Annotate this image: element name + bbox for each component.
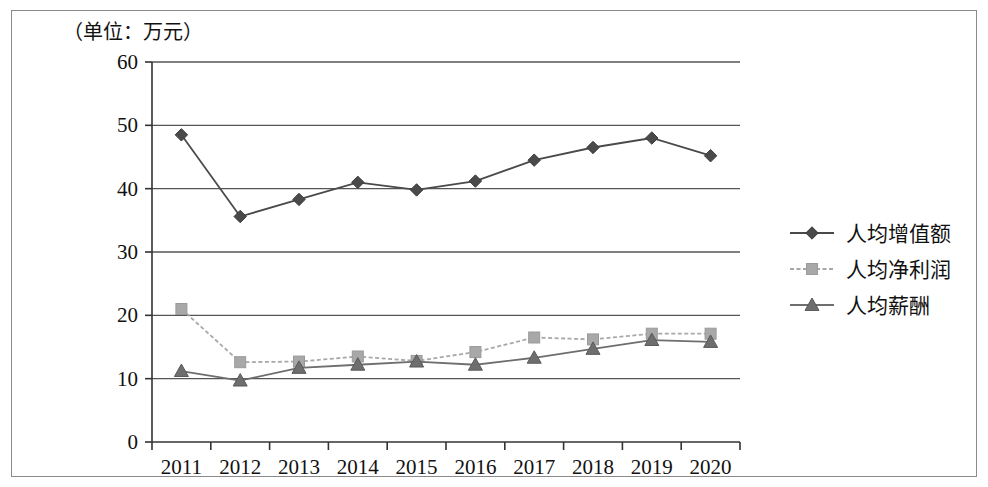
legend-marker bbox=[806, 227, 818, 239]
y-tick-label: 40 bbox=[117, 177, 138, 201]
data-point bbox=[470, 347, 481, 358]
data-point bbox=[174, 364, 188, 376]
series-2 bbox=[176, 304, 716, 368]
legend-item-1: 人均增值额 bbox=[790, 222, 951, 246]
legend-item-2: 人均净利润 bbox=[790, 258, 951, 282]
data-point bbox=[176, 304, 187, 315]
legend-item-3: 人均薪酬 bbox=[790, 294, 930, 318]
y-tick-label: 0 bbox=[128, 430, 139, 454]
x-tick-label: 2017 bbox=[513, 455, 555, 479]
line-chart: 6050403020100 20112012201320142015201620… bbox=[0, 0, 988, 487]
x-axis bbox=[152, 442, 740, 450]
y-axis bbox=[145, 62, 152, 442]
data-point bbox=[234, 210, 246, 222]
series-line bbox=[181, 309, 710, 362]
x-tick-label: 2011 bbox=[161, 455, 202, 479]
x-tick-label: 2020 bbox=[690, 455, 732, 479]
chart-figure: （单位：万元） 6050403020100 201120122013201420… bbox=[0, 0, 988, 487]
data-point bbox=[235, 357, 246, 368]
data-point bbox=[410, 184, 422, 196]
data-point bbox=[529, 332, 540, 343]
y-tick-labels: 6050403020100 bbox=[117, 50, 138, 454]
legend-label: 人均薪酬 bbox=[846, 294, 930, 318]
legend-marker bbox=[807, 264, 818, 275]
series-line bbox=[181, 135, 710, 217]
legend-label: 人均增值额 bbox=[846, 222, 951, 246]
data-series-group bbox=[174, 129, 717, 386]
x-tick-label: 2018 bbox=[572, 455, 614, 479]
y-tick-label: 10 bbox=[117, 367, 138, 391]
x-tick-labels: 2011201220132014201520162017201820192020 bbox=[161, 455, 732, 479]
y-tick-label: 20 bbox=[117, 303, 138, 327]
y-tick-label: 50 bbox=[117, 113, 138, 137]
series-line bbox=[181, 340, 710, 381]
y-tick-label: 30 bbox=[117, 240, 138, 264]
data-point bbox=[293, 193, 305, 205]
data-point bbox=[352, 176, 364, 188]
data-point bbox=[646, 132, 658, 144]
x-tick-label: 2014 bbox=[337, 455, 380, 479]
x-tick-label: 2016 bbox=[454, 455, 496, 479]
data-point bbox=[175, 129, 187, 141]
x-tick-label: 2012 bbox=[219, 455, 261, 479]
data-point bbox=[469, 175, 481, 187]
chart-legend: 人均增值额人均净利润人均薪酬 bbox=[790, 222, 951, 318]
x-tick-label: 2019 bbox=[631, 455, 673, 479]
series-1 bbox=[175, 129, 717, 223]
y-tick-label: 60 bbox=[117, 50, 138, 74]
legend-label: 人均净利润 bbox=[846, 258, 951, 282]
data-point bbox=[704, 150, 716, 162]
x-tick-label: 2013 bbox=[278, 455, 320, 479]
data-point bbox=[528, 154, 540, 166]
data-point bbox=[587, 141, 599, 153]
x-tick-label: 2015 bbox=[396, 455, 438, 479]
